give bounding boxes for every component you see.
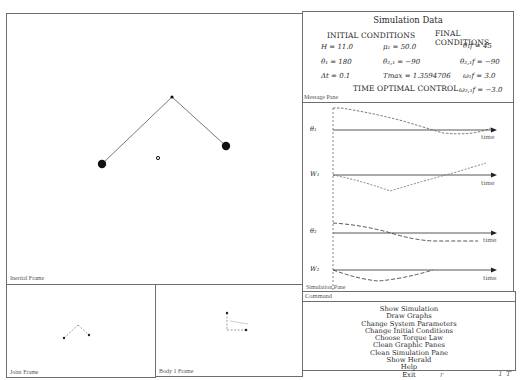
simulation-data-title: Simulation Data: [303, 15, 513, 25]
mass-2-icon: [222, 142, 230, 150]
graph-label-w1: W₁: [310, 170, 319, 178]
graph-label-theta2: θ₂: [310, 227, 317, 235]
center-of-mass-icon: [156, 156, 159, 159]
param-omega21-final: ω₂,₁f = −3.0: [459, 86, 502, 94]
margin-mark-right: 1 T: [498, 369, 511, 378]
param-dt: Δt = 0.1: [321, 72, 350, 80]
arrow-icon: [491, 128, 497, 133]
margin-mark-left: r: [440, 371, 443, 379]
arrow-icon: [491, 173, 497, 178]
arrow-icon: [491, 268, 497, 273]
param-h: H = 11.0: [321, 43, 353, 51]
joint-dot-icon: [170, 95, 173, 98]
simulation-pane: θ₁ time W₁ time θ₂ time W₂ time Simulati…: [302, 102, 514, 292]
time-optimal-control-heading: TIME OPTIMAL CONTROL: [353, 84, 458, 93]
time-label: time: [483, 274, 497, 281]
menu-item-exit[interactable]: Exit: [303, 372, 515, 379]
time-label: time: [483, 236, 497, 243]
initial-conditions-heading: INITIAL CONDITIONS: [327, 31, 415, 40]
simulation-pane-label: Simulation Pane: [306, 284, 346, 290]
message-pane-label: Message Pane: [304, 94, 338, 100]
command-pane: Command Show Simulation Draw Graphs Chan…: [302, 291, 516, 371]
pendulum-drawing: [7, 14, 304, 286]
link-2-line: [172, 97, 226, 146]
command-divider: [303, 301, 515, 302]
mass-1-icon: [98, 160, 106, 168]
param-omega1-final: ω₁f = 3.0: [463, 72, 496, 80]
w2-curve: [333, 270, 433, 281]
param-mu: μ₁ = 50.0: [383, 43, 416, 51]
link-1-line: [102, 97, 172, 164]
joint-frame-label: Joint Frame: [10, 369, 39, 375]
param-tmax: Tmax = 1.3594706: [383, 72, 451, 80]
command-menu: Show Simulation Draw Graphs Change Syste…: [303, 306, 515, 379]
theta2-curve: [333, 223, 478, 241]
body1-frame-pane: Body 1 Frame: [155, 284, 303, 377]
joint-frame-drawing: [7, 285, 157, 379]
time-label: time: [481, 133, 495, 140]
param-theta21: θ₂,₁ = −90: [383, 58, 420, 66]
command-pane-label: Command: [305, 292, 332, 299]
joint-frame-pane: Joint Frame: [6, 284, 156, 378]
simulation-data-pane: Simulation Data INITIAL CONDITIONS FINAL…: [302, 11, 514, 95]
graph-label-w2: W₂: [310, 265, 319, 273]
graph-label-theta1: θ₁: [310, 125, 317, 133]
arrow-icon: [491, 231, 497, 236]
simulation-graphs: [303, 103, 515, 293]
param-theta1-final: θ₁f = 45: [463, 42, 492, 50]
param-theta1: θ₁ = 180: [321, 58, 352, 66]
time-label: time: [481, 179, 495, 186]
param-theta21-final: θ₂,₁f = −90: [460, 58, 500, 66]
body1-frame-drawing: [156, 285, 304, 378]
inertial-frame-label: Inertial Frame: [10, 275, 44, 281]
body1-frame-label: Body 1 Frame: [159, 368, 193, 374]
w1-curve: [333, 163, 486, 191]
inertial-frame-pane: Inertial Frame: [6, 13, 303, 285]
